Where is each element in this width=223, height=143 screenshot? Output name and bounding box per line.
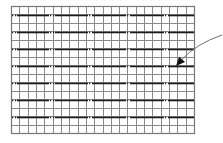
grid-minor-lines bbox=[11, 6, 194, 133]
pointer-arrow-icon bbox=[176, 35, 222, 66]
grid-diagram bbox=[0, 0, 223, 143]
diagram-canvas bbox=[0, 0, 223, 143]
